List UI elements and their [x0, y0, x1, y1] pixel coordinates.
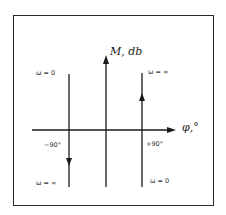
magnitude-axis — [103, 55, 109, 187]
left-line-phase-label: −90° — [44, 142, 61, 149]
phase-axis-arrowhead-icon — [167, 127, 176, 133]
diagram-canvas — [0, 0, 226, 215]
up-arrow-icon — [139, 93, 145, 101]
magnitude-axis-label: M, db — [110, 46, 142, 57]
left-line-bottom-label: ω = ∞ — [36, 180, 56, 187]
right-line-phase-label: +90° — [146, 141, 163, 148]
phase-axis-label: φ,° — [182, 122, 199, 133]
right-line-top-label: ω = ∞ — [148, 69, 168, 76]
left-line-top-label: ω = 0 — [36, 70, 55, 77]
phase-axis — [32, 127, 176, 133]
right-line-bottom-label: ω = 0 — [150, 178, 169, 185]
down-arrow-icon — [66, 158, 72, 166]
magnitude-axis-arrowhead-icon — [103, 55, 109, 64]
